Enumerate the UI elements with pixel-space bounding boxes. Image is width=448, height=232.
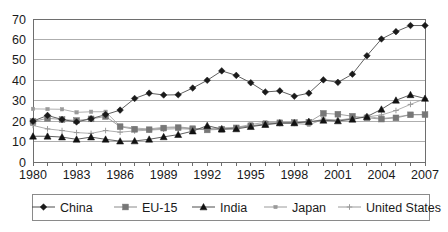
data-point-china-1992 [204,77,211,84]
y-axis-label-70: 70 [12,13,26,27]
y-axis-labels: 010203040506070 [12,13,26,170]
y-axis-label-40: 40 [12,74,26,88]
data-point-eu-15-2000 [320,110,326,116]
series-line-china [33,26,425,122]
legend-label-japan: Japan [292,201,326,215]
legend-marker-square-icon [123,204,129,210]
legend-label-united-states: United States [366,201,441,215]
plot-area-border [33,19,425,162]
legend-marker-small-square-icon [274,205,277,208]
data-point-eu-15-1989 [161,125,167,131]
data-point-china-2005 [393,28,400,35]
data-point-china-1991 [189,85,196,92]
x-axis-label-2004: 2004 [368,168,396,182]
data-point-japan-1983 [75,111,78,114]
x-axis-label-1980: 1980 [19,168,47,182]
y-axis-label-20: 20 [12,115,26,129]
x-axis-label-1983: 1983 [63,168,91,182]
data-point-china-1997 [277,88,284,95]
data-point-united-states-1983 [74,130,80,136]
chart-plot-border [33,19,425,162]
line-chart: 010203040506070 198019831986198919921995… [0,0,448,232]
data-point-japan-1981 [46,107,49,110]
data-point-china-1994 [233,72,240,79]
data-point-india-2005 [392,97,399,103]
data-point-united-states-1981 [45,126,51,132]
y-axis-label-10: 10 [12,135,26,149]
data-point-china-2006 [407,22,414,29]
data-point-united-states-2006 [408,102,414,108]
data-point-eu-15-2006 [408,112,414,118]
y-axis-label-50: 50 [12,53,26,67]
x-axis-label-1992: 1992 [193,168,221,182]
data-point-eu-15-2001 [335,111,341,117]
data-point-eu-15-1986 [117,124,123,130]
data-point-china-1996 [262,89,269,96]
chart-legend: ChinaEU-15IndiaJapanUnited States [32,194,441,220]
data-point-japan-1982 [60,108,63,111]
data-point-eu-15-2004 [379,116,385,122]
y-axis-label-60: 60 [12,33,26,47]
chart-series-lines [33,26,425,142]
chart-container: 010203040506070 198019831986198919921995… [0,0,448,232]
x-axis-label-1986: 1986 [106,168,134,182]
x-axis-label-1995: 1995 [237,168,265,182]
data-point-china-1993 [218,68,225,75]
x-axis-label-1989: 1989 [150,168,178,182]
data-point-india-2004 [378,106,385,112]
data-point-china-1988 [146,90,153,97]
data-point-united-states-1985 [103,128,109,134]
legend-label-india: India [220,201,247,215]
x-axis-label-2007: 2007 [411,168,439,182]
data-point-eu-15-1987 [132,126,138,132]
data-point-japan-1984 [89,110,92,113]
data-point-eu-15-2007 [422,112,428,118]
data-point-eu-15-1990 [175,125,181,131]
data-point-china-1989 [160,92,167,99]
data-point-eu-15-1988 [146,127,152,133]
x-axis-label-1998: 1998 [280,168,308,182]
x-axis-label-2001: 2001 [324,168,352,182]
data-point-india-1984 [88,134,95,140]
legend-label-eu-15: EU-15 [142,201,177,215]
x-axis-labels: 1980198319861989199219951998200120042007 [19,168,439,182]
data-point-china-2007 [422,22,429,29]
data-point-united-states-2005 [393,108,399,114]
chart-series-markers [30,22,429,144]
data-point-united-states-1982 [59,128,65,134]
data-point-india-2006 [407,91,414,97]
data-point-china-1998 [291,93,298,100]
chart-tick-marks [33,162,425,166]
y-axis-label-30: 30 [12,94,26,108]
data-point-india-1992 [204,122,211,128]
chart-gridlines [33,19,425,162]
data-point-japan-1980 [31,107,34,110]
data-point-eu-15-2005 [393,115,399,121]
data-point-china-1990 [175,91,182,98]
data-point-united-states-1986 [117,129,123,135]
legend-label-china: China [60,201,93,215]
